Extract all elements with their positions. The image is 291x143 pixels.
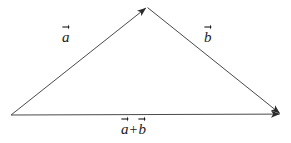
vector-a-label-stack: a [62, 30, 70, 45]
vector-diagram-figure: a b a + [0, 0, 291, 143]
vector-a-line [11, 8, 146, 115]
vector-b-label: b [204, 30, 212, 45]
vector-sum-b-glyph: b [138, 122, 146, 137]
vector-sum-first-stack: a [121, 122, 129, 137]
vector-sum-line [11, 114, 280, 115]
vector-sum-a-glyph: a [121, 122, 129, 137]
vector-sum-label: a + b [121, 122, 146, 137]
vector-a-label: a [62, 30, 70, 45]
vector-a-glyph: a [62, 30, 70, 45]
vector-b-line [148, 8, 280, 114]
vector-sum-second-stack: b [138, 122, 146, 137]
vector-b-glyph: b [204, 30, 212, 45]
plus-operator: + [129, 123, 139, 137]
vector-b-label-stack: b [204, 30, 212, 45]
